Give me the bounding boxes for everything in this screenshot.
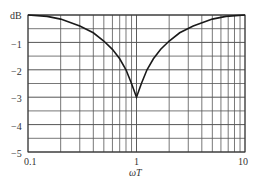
- y-tick-4: −4: [11, 121, 22, 132]
- x-tick-10: 10: [238, 156, 248, 167]
- y-tick-5: −5: [11, 148, 22, 159]
- y-tick-1: −1: [11, 39, 22, 50]
- chart: dB −1 −2 −3 −4 −5 0.1 1 10 ωT: [0, 0, 254, 180]
- y-tick-2: −2: [11, 66, 22, 77]
- grid-lines: [28, 15, 245, 152]
- x-tick-1: 1: [134, 156, 139, 167]
- y-tick-3: −3: [11, 93, 22, 104]
- y-axis-label: dB: [10, 10, 22, 21]
- x-axis-label: ωT: [129, 167, 143, 178]
- x-tick-0.1: 0.1: [24, 156, 37, 167]
